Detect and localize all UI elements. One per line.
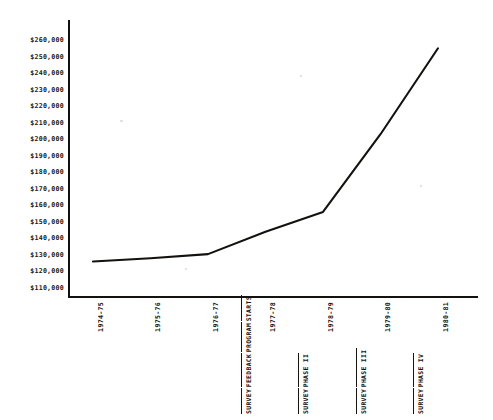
- annotation-rule: [413, 353, 414, 388]
- annotation-line: SURVEY: [303, 387, 311, 414]
- annotation-group: SURVEYPHASE II: [301, 352, 311, 414]
- annotation-rule: [241, 353, 242, 388]
- annotation-rule: [241, 295, 242, 321]
- annotation-line: PHASE II: [303, 352, 311, 387]
- annotation-line: SURVEY: [246, 387, 254, 414]
- annotation-rule: [298, 388, 299, 414]
- annotation-rule: [356, 388, 357, 414]
- annotation-line: SURVEY: [418, 387, 426, 414]
- annotation-rule: [413, 388, 414, 414]
- annotation-line: STARTS: [246, 295, 254, 322]
- annotation-line: SURVEY: [361, 387, 369, 414]
- annotation-rule: [298, 353, 299, 388]
- annotation-line: PROGRAM: [246, 321, 254, 352]
- annotation-group: SURVEYPHASE III: [359, 348, 369, 414]
- annotation-line: FEEDBACK: [246, 352, 254, 387]
- chart-annotations: SURVEYFEEDBACKPROGRAMSTARTSSURVEYPHASE I…: [0, 0, 493, 420]
- annotation-line: PHASE III: [361, 348, 369, 387]
- annotation-rule: [356, 348, 357, 387]
- annotation-line: PHASE IV: [418, 352, 426, 387]
- annotation-group: SURVEYFEEDBACKPROGRAMSTARTS: [244, 295, 254, 414]
- line-chart: $260,000$250,000$240,000$230,000$220,000…: [0, 0, 493, 420]
- annotation-rule: [241, 388, 242, 414]
- annotation-rule: [241, 322, 242, 352]
- annotation-group: SURVEYPHASE IV: [416, 352, 426, 414]
